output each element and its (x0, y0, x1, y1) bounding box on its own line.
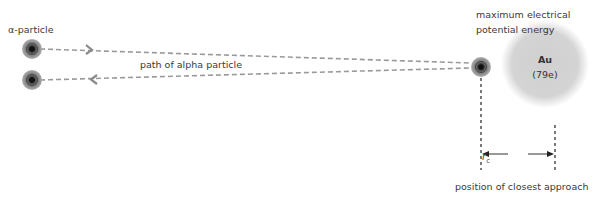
alpha-particle-closest (471, 57, 491, 77)
alpha-particle-incoming (22, 39, 42, 59)
max-energy-line1: maximum electrical (476, 7, 570, 22)
rc-dimension (482, 151, 554, 157)
closest-approach-label: position of closest approach (455, 181, 588, 192)
arrow-left-icon (91, 75, 97, 84)
rc-label: rc (482, 151, 490, 165)
rc-subscript: c (486, 157, 490, 165)
alpha-particle-label: α-particle (8, 24, 54, 35)
arrow-right-icon (86, 45, 92, 54)
alpha-particle-outgoing (22, 70, 42, 90)
nucleus-charge: (79e) (515, 67, 575, 82)
nucleus-label: Au (79e) (515, 52, 575, 82)
incoming-path (40, 49, 470, 63)
nucleus-symbol: Au (515, 52, 575, 67)
max-energy-line2: potential energy (476, 22, 570, 37)
outgoing-path (40, 68, 470, 80)
path-label: path of alpha particle (140, 59, 242, 70)
max-energy-label: maximum electrical potential energy (476, 7, 570, 37)
